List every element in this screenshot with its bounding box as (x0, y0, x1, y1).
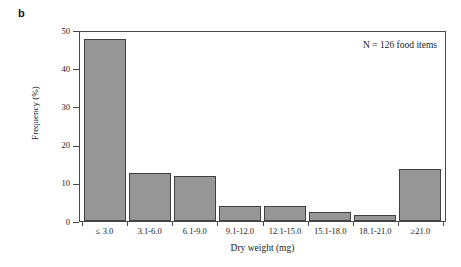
y-axis-tick-label: 40 (62, 65, 71, 74)
x-axis-tick-label: 6.1-9.0 (172, 226, 217, 236)
y-axis-tick-mark (73, 222, 79, 223)
x-axis-tick-label: ≤ 3.0 (82, 226, 127, 236)
x-axis-tick-mark (353, 222, 354, 226)
x-axis-tick-mark (172, 222, 173, 226)
y-axis-tick-label: 50 (62, 27, 71, 36)
x-axis-tick-mark (82, 222, 83, 226)
y-axis-tick-label: 30 (62, 103, 71, 112)
y-axis-tick-label: 0 (66, 218, 70, 227)
x-axis-tick-labels: ≤ 3.03.1-6.06.1-9.09.1-12.012.1-15.015.1… (79, 226, 446, 236)
y-axis-tick-label: 10 (62, 179, 71, 188)
x-axis-tick-mark (443, 222, 444, 226)
x-axis-tick-label: 18.1-21.0 (353, 226, 398, 236)
bar-slot (218, 32, 263, 221)
bar[interactable] (129, 173, 171, 222)
x-axis-tick-label: 3.1-6.0 (127, 226, 172, 236)
x-axis-tick-label: 15.1-18.0 (308, 226, 353, 236)
panel-label: b (18, 6, 25, 20)
bar-slot (128, 32, 173, 221)
bar-slot (352, 32, 397, 221)
y-axis-tick-label: 20 (62, 141, 71, 150)
sample-size-annotation: N = 126 food items (363, 40, 437, 51)
y-axis-title: Frequency (%) (30, 63, 40, 163)
bar-series (80, 32, 445, 221)
bar[interactable] (264, 206, 306, 221)
x-axis-tick-label: 9.1-12.0 (217, 226, 262, 236)
bar[interactable] (219, 206, 261, 221)
bar[interactable] (309, 212, 351, 221)
bar-slot (263, 32, 308, 221)
bar[interactable] (174, 176, 216, 221)
x-axis-tick-mark (263, 222, 264, 226)
x-axis-tick-label: 12.1-15.0 (263, 226, 308, 236)
x-axis-tick-mark (398, 222, 399, 226)
plot-area: N = 126 food items (79, 31, 446, 222)
bar-slot (173, 32, 218, 221)
bar-slot (397, 32, 442, 221)
x-axis-tick-label: ≥21.0 (398, 226, 443, 236)
bar-slot (307, 32, 352, 221)
bar[interactable] (84, 39, 126, 221)
bar[interactable] (354, 215, 396, 221)
bar[interactable] (399, 169, 441, 221)
x-axis-tick-mark (308, 222, 309, 226)
x-axis-tick-mark (217, 222, 218, 226)
x-axis-title: Dry weight (mg) (79, 243, 446, 254)
bar-slot (83, 32, 128, 221)
x-axis-tick-mark (127, 222, 128, 226)
figure-panel: b Frequency (%) 01020304050 N = 126 food… (0, 0, 461, 267)
